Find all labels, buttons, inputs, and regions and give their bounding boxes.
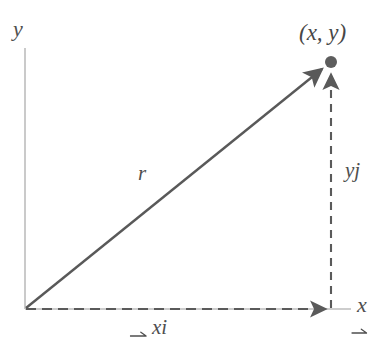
position-vector <box>26 69 322 308</box>
y-component-base-glyph: y <box>345 158 354 182</box>
i-hat-glyph: i <box>161 317 167 338</box>
y-axis-label: y <box>13 18 23 40</box>
i-base-glyph: i <box>161 317 167 338</box>
point-coordinate-label: (x, y) <box>299 21 346 44</box>
r-base-glyph: r <box>138 163 146 184</box>
x-component-label: x i <box>152 317 167 338</box>
point-marker <box>325 56 337 68</box>
r-vector-glyph: r <box>138 163 146 184</box>
j-hat-glyph: j <box>354 160 360 181</box>
diagram-canvas <box>0 0 390 354</box>
y-component-label: y j <box>345 160 360 181</box>
position-vector-label: r <box>138 163 146 184</box>
x-component-base-glyph: x <box>152 315 161 339</box>
j-base-glyph: j <box>354 160 360 181</box>
vector-diagram: y x (x, y) r x i y j <box>0 0 390 354</box>
x-axis-label: x <box>357 294 367 316</box>
